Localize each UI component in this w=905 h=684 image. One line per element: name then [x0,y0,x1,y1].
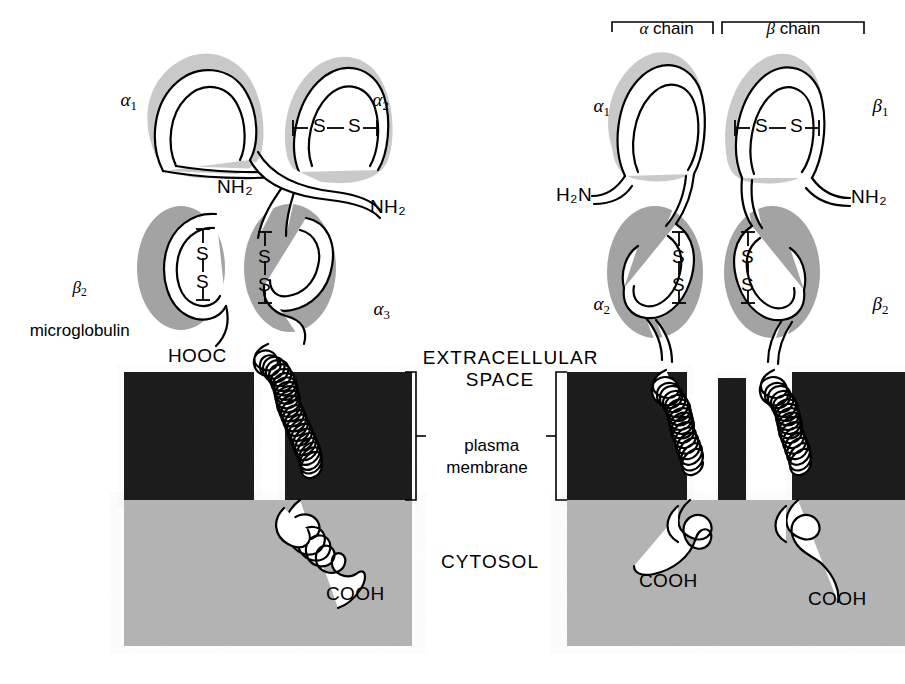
disulfide-s-beta1-1: S [755,115,768,136]
terminus-hooc: HOOC [168,345,227,366]
label-alpha2-right: α2 [583,272,610,317]
label-beta2: β2 [862,272,888,317]
figure-canvas: α1 α2 α3 β2 microglobulin NH₂ NH₂ HOOC C… [0,0,905,684]
disulfide-s-b2m-1: S [196,243,209,264]
label-alpha3: α3 [363,277,390,322]
membrane-blocks-right [567,372,905,500]
terminus-cooh-alpha: COOH [639,570,698,591]
membrane-blocks-left [124,372,412,500]
class1-alpha-chain-ribbon [155,68,388,346]
label-alpha1-right: α1 [583,74,610,119]
label-plasma-membrane: plasmamembrane [432,414,542,478]
disulfide-s-alpha2-1: S [313,115,326,136]
cytosol-region-left [124,500,412,646]
disulfide-s-b2m-2: S [196,271,209,292]
terminus-nh2-right: NH₂ [370,196,406,217]
label-beta1: β1 [862,74,888,119]
label-beta-chain-bracket: β chain [757,0,820,38]
bracket-membrane-right [546,372,567,500]
terminus-nh2-left: NH₂ [217,176,253,197]
label-alpha1-left: α1 [110,68,137,113]
terminus-nh2-class2: NH₂ [851,186,887,207]
disulfide-s-ralpha2-2: S [672,274,685,295]
disulfide-s-alpha3-1: S [258,246,271,267]
disulfide-s-alpha3-2: S [258,274,271,295]
label-beta2-microglobulin: β2 microglobulin [10,258,140,341]
label-extracellular-space: EXTRACELLULARSPACE [410,326,590,390]
disulfide-s-ralpha2-1: S [672,246,685,267]
cytosol-region-right [567,500,905,646]
disulfide-s-rbeta2-1: S [741,246,754,267]
disulfide-s-beta1-2: S [790,115,803,136]
disulfide-s-rbeta2-2: S [741,274,754,295]
label-cytosol: CYTOSOL [430,551,550,572]
terminus-h2n: H₂N [556,184,592,205]
label-alpha2-left: α2 [362,68,389,113]
label-alpha-chain-bracket: α chain [630,0,694,38]
terminus-cooh-class1: COOH [326,583,385,604]
disulfide-s-alpha2-2: S [348,115,361,136]
terminus-cooh-beta: COOH [808,588,867,609]
